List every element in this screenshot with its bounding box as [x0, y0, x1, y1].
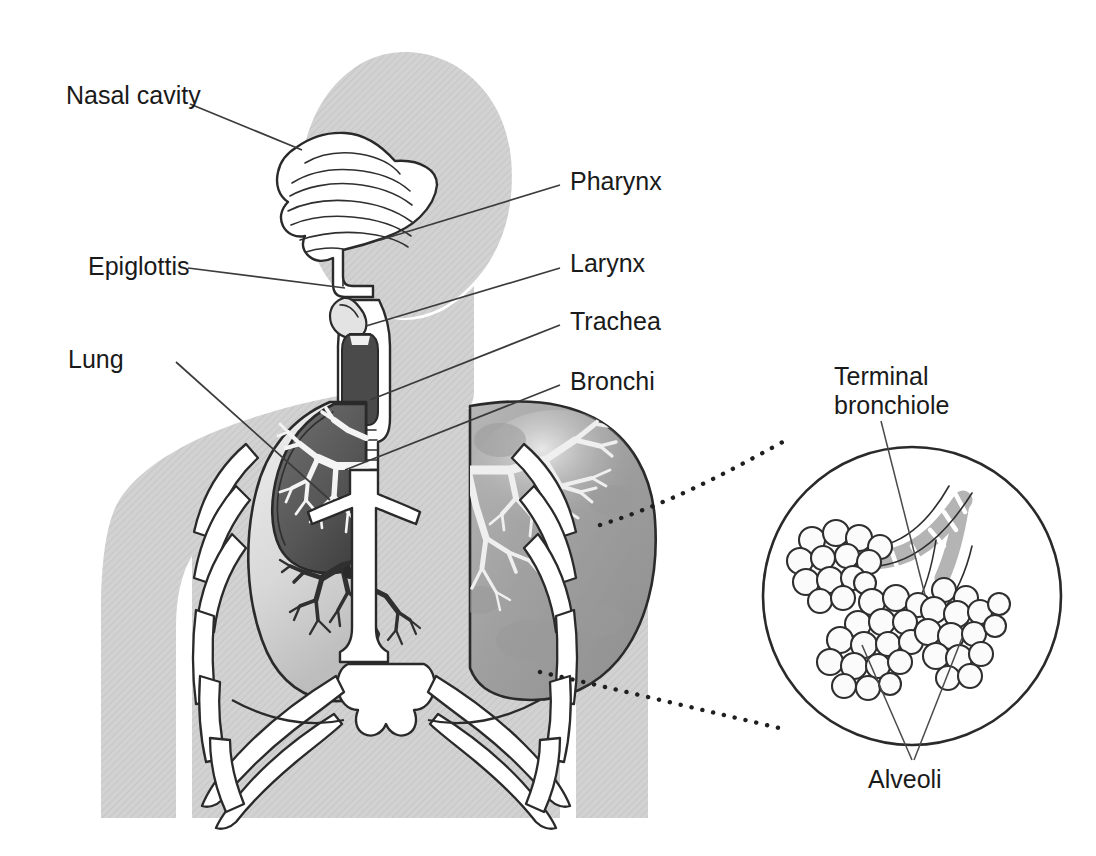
leader-nasal-cavity [190, 104, 302, 150]
label-lung: Lung [68, 345, 124, 373]
magnified-inset-circle [763, 421, 1061, 760]
label-bronchi: Bronchi [570, 367, 655, 395]
label-trachea: Trachea [570, 307, 661, 335]
label-epiglottis: Epiglottis [88, 252, 189, 280]
label-alveoli: Alveoli [868, 765, 942, 793]
label-nasal-cavity: Nasal cavity [66, 81, 201, 109]
label-terminal-bronchiole-line2: bronchiole [834, 391, 949, 419]
label-terminal-bronchiole-line1: Terminal [834, 362, 928, 390]
label-larynx: Larynx [570, 249, 646, 277]
diagram-canvas: Nasal cavity Pharynx Epiglottis Larynx T… [0, 0, 1096, 856]
glottis-highlight [350, 336, 370, 345]
label-pharynx: Pharynx [570, 167, 662, 195]
leader-epiglottis [188, 268, 345, 288]
respiratory-system-figure: Nasal cavity Pharynx Epiglottis Larynx T… [0, 0, 1096, 856]
